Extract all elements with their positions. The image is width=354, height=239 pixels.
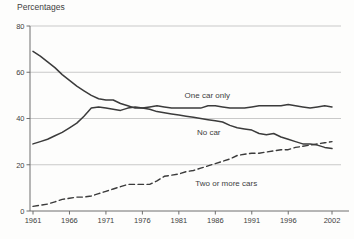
y-tick-label-80: 80 — [16, 22, 24, 31]
x-tick-label-1981: 1981 — [171, 216, 188, 225]
x-tick-label-2002: 2002 — [324, 216, 341, 225]
series-no-car-line — [33, 51, 332, 148]
series-label-one-car-only: One car only — [185, 91, 230, 100]
series-two-or-more-cars-line — [33, 142, 332, 207]
car-ownership-line-chart: Percentages 0204060801961196619711976198… — [0, 0, 354, 239]
x-tick-label-1966: 1966 — [61, 216, 78, 225]
x-tick-label-1991: 1991 — [243, 216, 260, 225]
x-tick-label-1971: 1971 — [98, 216, 115, 225]
x-tick-label-1976: 1976 — [134, 216, 151, 225]
x-tick-label-1996: 1996 — [280, 216, 297, 225]
series-label-no-car: No car — [197, 128, 221, 137]
y-tick-label-0: 0 — [20, 207, 24, 216]
y-tick-label-20: 20 — [16, 161, 24, 170]
y-tick-label-40: 40 — [16, 114, 24, 123]
x-tick-label-1986: 1986 — [207, 216, 224, 225]
series-label-two-or-more-cars: Two or more cars — [195, 179, 257, 188]
series-one-car-only-line — [33, 105, 332, 144]
y-tick-label-60: 60 — [16, 68, 24, 77]
plot-area: 0204060801961196619711976198119861991199… — [0, 0, 354, 239]
x-tick-label-1961: 1961 — [25, 216, 42, 225]
